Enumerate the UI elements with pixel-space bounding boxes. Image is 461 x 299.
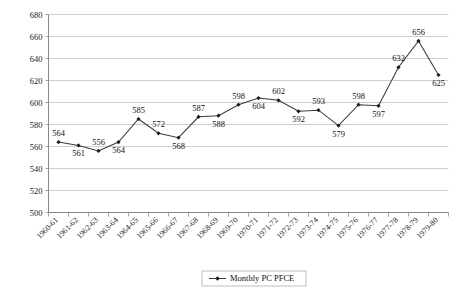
y-axis-tick-label: 520 [30,186,43,196]
y-axis-tick-label: 600 [30,98,43,108]
series-markers [56,39,440,153]
y-axis-tick-labels: 680660640620600580560540520500 [30,10,49,218]
y-axis-tick-label: 620 [30,76,43,86]
data-point-label: 656 [412,27,425,37]
data-point-label: 568 [172,141,185,151]
data-point-label: 632 [392,53,405,63]
y-axis-tick-label: 660 [30,32,43,42]
gridlines [49,15,449,213]
chart-container: 680660640620600580560540520500 1960-6119… [0,0,461,299]
data-point-label: 556 [92,137,105,147]
data-point-marker [256,96,260,100]
line-chart: 680660640620600580560540520500 1960-6119… [0,0,461,299]
data-point-label: 564 [52,128,66,138]
y-axis-tick-label: 500 [30,208,43,218]
data-point-label: 585 [132,105,145,115]
data-point-marker [376,104,380,108]
data-point-label: 593 [312,96,325,106]
series-line-monthly-pc-pfce [59,41,439,151]
data-point-label: 604 [252,101,266,111]
y-axis-tick-label: 680 [30,10,43,20]
data-point-labels: 5645615565645855725685875885986046025925… [52,27,445,159]
data-point-marker [236,103,240,107]
data-point-label: 587 [192,103,205,113]
y-axis-tick-label: 540 [30,164,43,174]
data-point-label: 598 [352,91,365,101]
data-point-marker [56,140,60,144]
data-point-label: 598 [232,91,245,101]
data-point-label: 592 [292,114,305,124]
legend-label: Monthly PC PFCE [230,273,294,283]
data-point-label: 572 [152,119,165,129]
y-axis-tick-label: 560 [30,142,43,152]
y-axis-tick-label: 640 [30,54,43,64]
data-point-marker [296,109,300,113]
data-point-label: 602 [272,86,285,96]
y-axis-tick-label: 580 [30,120,43,130]
data-point-marker [76,143,80,147]
data-point-marker [276,98,280,102]
data-point-label: 579 [332,129,345,139]
data-point-label: 588 [212,119,225,129]
data-point-marker [96,149,100,153]
data-point-marker [216,114,220,118]
x-axis-tick-label: 1979-80 [415,216,440,241]
chart-legend: Monthly PC PFCE [202,271,306,286]
x-axis-tick-marks [49,213,449,217]
data-point-label: 564 [112,145,126,155]
data-point-label: 625 [432,78,445,88]
series-line [59,41,439,151]
data-point-label: 561 [72,148,85,158]
x-axis-tick-labels: 1960-611961-621962-631963-641964-651965-… [35,216,440,241]
data-point-label: 597 [372,109,385,119]
